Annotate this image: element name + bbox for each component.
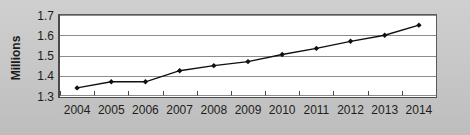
x-axis-ticks: [61, 91, 437, 96]
y-axis-tick-label: 1.5: [18, 49, 54, 63]
line-chart: Millions 1.31.41.51.61.7 200420052006200…: [0, 0, 470, 135]
x-axis-tick-label: 2012: [337, 103, 364, 117]
x-axis-tick-label: 2010: [269, 103, 296, 117]
x-axis-tick-label: 2007: [166, 103, 193, 117]
data-point-marker: [382, 33, 387, 38]
data-point-marker: [109, 79, 114, 84]
plot-svg: [60, 15, 436, 96]
x-axis-tick-label: 2013: [371, 103, 398, 117]
x-axis-tick-label: 2014: [406, 103, 433, 117]
x-axis-tick-label: 2005: [98, 103, 125, 117]
data-point-marker: [143, 79, 148, 84]
x-axis-tick-label: 2011: [303, 103, 329, 117]
x-axis-tick-label: 2009: [235, 103, 262, 117]
data-point-marker: [177, 68, 182, 73]
plot-area: [58, 14, 437, 98]
data-point-marker: [416, 22, 421, 27]
gridlines: [60, 16, 436, 96]
data-point-marker: [348, 39, 353, 44]
data-point-marker: [74, 85, 79, 90]
data-point-marker: [211, 63, 216, 68]
y-axis-tick-label: 1.3: [18, 90, 54, 104]
y-axis-tick-label: 1.4: [18, 69, 54, 83]
data-point-marker: [245, 59, 250, 64]
data-point-marker: [314, 46, 319, 51]
x-axis-tick-label: 2004: [64, 103, 91, 117]
x-axis-tick-label: 2006: [132, 103, 159, 117]
x-axis-tick-label: 2008: [200, 103, 227, 117]
y-axis-tick-label: 1.6: [18, 29, 54, 43]
y-axis-tick-label: 1.7: [18, 9, 54, 23]
x-axis-tick-labels: 2004200520062007200820092010201120122013…: [0, 103, 470, 123]
